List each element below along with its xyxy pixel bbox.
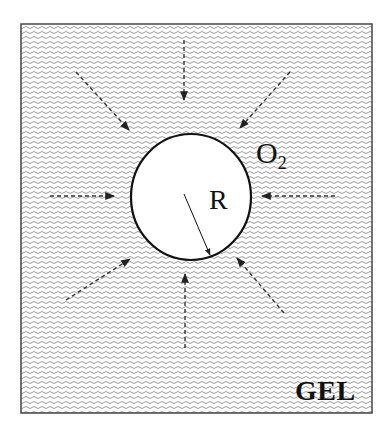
oxygen-symbol: O — [256, 136, 278, 169]
gel-label: GEL — [295, 377, 356, 405]
oxygen-subscript: 2 — [278, 153, 287, 173]
radius-label: R — [209, 186, 228, 214]
diagram-canvas — [0, 0, 389, 432]
oxygen-label: O2 — [256, 138, 287, 172]
bubble-circle — [131, 134, 251, 260]
